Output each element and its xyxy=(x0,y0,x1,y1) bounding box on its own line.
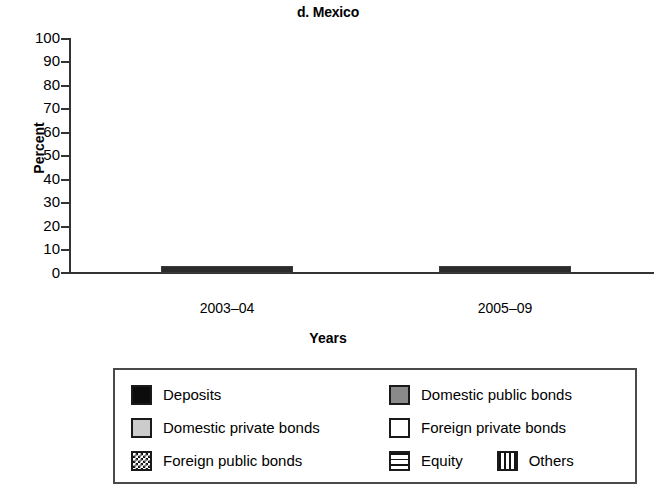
legend-item-others[interactable]: Others xyxy=(497,451,574,471)
legend-label: Foreign public bonds xyxy=(163,452,302,469)
legend-swatch-equity-icon xyxy=(389,451,410,471)
legend-label: Equity xyxy=(421,452,463,469)
legend-grid: Deposits Domestic public bonds Domestic … xyxy=(131,378,627,478)
legend-row: Deposits Domestic public bonds xyxy=(131,378,627,411)
legend-item-equity[interactable]: Equity xyxy=(389,451,463,471)
legend-swatch-domestic-private-bonds-icon xyxy=(131,418,152,438)
bars-container xyxy=(69,38,654,273)
legend-label: Domestic public bonds xyxy=(421,386,572,403)
y-axis-tick-labels: 100 90 80 70 60 50 40 30 20 10 0 xyxy=(14,0,60,300)
bar-segment-domestic-public-bonds xyxy=(162,271,292,272)
legend-label: Domestic private bonds xyxy=(163,419,320,436)
x-tick-label-2003-04: 2003–04 xyxy=(147,300,307,316)
y-tick-label: 0 xyxy=(20,267,60,279)
legend-label: Deposits xyxy=(163,386,221,403)
legend-swatch-others-icon xyxy=(497,451,518,471)
legend-swatch-deposits-icon xyxy=(131,385,152,405)
bar-segment-domestic-public-bonds xyxy=(440,271,570,272)
x-axis-title: Years xyxy=(0,330,656,346)
y-tick-label: 60 xyxy=(20,126,60,138)
legend-item-foreign-private-bonds[interactable]: Foreign private bonds xyxy=(389,418,566,438)
y-tick-label: 50 xyxy=(20,149,60,161)
legend-item-domestic-private-bonds[interactable]: Domestic private bonds xyxy=(131,418,389,438)
stacked-bar-2003-04[interactable] xyxy=(161,266,293,273)
stacked-bar-2005-09[interactable] xyxy=(439,266,571,273)
y-tick-label: 20 xyxy=(20,220,60,232)
legend-item-deposits[interactable]: Deposits xyxy=(131,385,389,405)
plot-area: Percent 100 90 80 70 60 50 40 30 20 10 0 xyxy=(0,0,656,300)
y-tick-label: 80 xyxy=(20,79,60,91)
legend-label: Others xyxy=(529,452,574,469)
y-tick-label: 100 xyxy=(20,32,60,44)
legend-label: Foreign private bonds xyxy=(421,419,566,436)
y-tick-label: 40 xyxy=(20,173,60,185)
legend-swatch-foreign-public-bonds-icon xyxy=(131,451,152,471)
x-tick-label-2005-09: 2005–09 xyxy=(425,300,585,316)
legend-box: Deposits Domestic public bonds Domestic … xyxy=(113,368,637,484)
y-tick-label: 90 xyxy=(20,55,60,67)
y-tick-label: 10 xyxy=(20,243,60,255)
legend-item-foreign-public-bonds[interactable]: Foreign public bonds xyxy=(131,451,389,471)
legend-swatch-domestic-public-bonds-icon xyxy=(389,385,410,405)
legend-item-domestic-public-bonds[interactable]: Domestic public bonds xyxy=(389,385,572,405)
legend-swatch-foreign-private-bonds-icon xyxy=(389,418,410,438)
legend-row: Domestic private bonds Foreign private b… xyxy=(131,411,627,444)
y-tick-label: 30 xyxy=(20,196,60,208)
y-tick-label: 70 xyxy=(20,102,60,114)
legend-row: Foreign public bonds Equity Others xyxy=(131,444,627,477)
